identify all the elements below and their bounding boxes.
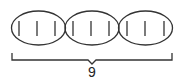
tally-marks — [19, 21, 164, 36]
grouping-diagram: 9 — [0, 0, 175, 83]
total-label: 9 — [82, 64, 102, 80]
bracket — [12, 53, 172, 64]
